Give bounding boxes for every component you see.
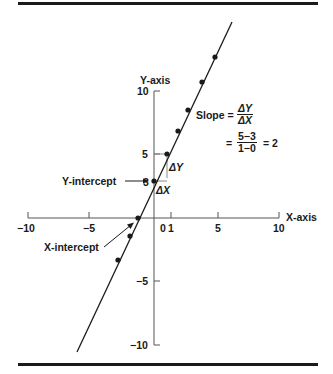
y-axis-label: Y-axis (140, 75, 170, 86)
y-tick-neg10: −10 (130, 340, 148, 351)
x-tick-10: 10 (273, 223, 285, 234)
y-tick-neg5: −5 (136, 276, 148, 287)
slope-fraction-delta: ΔY ΔX (237, 103, 253, 126)
x-tick-5: 5 (215, 223, 221, 234)
x-tick-neg5: −5 (83, 223, 95, 234)
delta-y-label: ΔY (169, 162, 183, 173)
y-intercept-label: Y-intercept (62, 176, 116, 187)
x-axis-label: X-axis (286, 212, 317, 223)
y-tick-5: 5 (142, 149, 148, 160)
slope-equals: = (226, 138, 232, 149)
x-intercept-label: X-intercept (44, 242, 99, 253)
y-tick-3: 3 (143, 177, 149, 188)
slope-fraction-values: 5−3 1−0 (237, 131, 257, 154)
delta-x-label: ΔX (156, 185, 170, 196)
y-tick-10: 10 (137, 86, 149, 97)
x-tick-1: 1 (168, 223, 174, 234)
x-tick-0: 0 (160, 223, 166, 234)
slope-result: = 2 (263, 138, 278, 149)
slope-label: Slope = (196, 110, 234, 121)
x-tick-neg10: −10 (17, 223, 35, 234)
